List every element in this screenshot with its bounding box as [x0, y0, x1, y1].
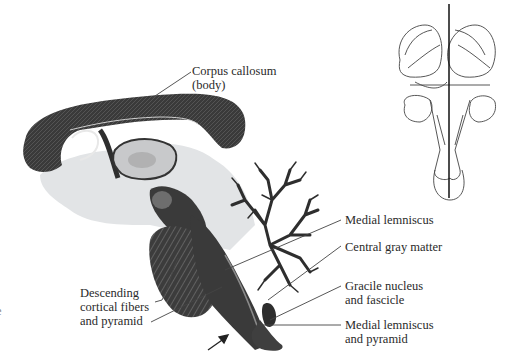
label-medial-lemniscus-pyramid: Medial lemniscus and pyramid	[345, 318, 434, 346]
label-medial-lemniscus: Medial lemniscus	[345, 213, 434, 227]
label-corpus-callosum: Corpus callosum (body)	[192, 64, 276, 92]
brain-section-illustration	[0, 0, 507, 359]
label-gracile-nucleus: Gracile nucleus and fascicle	[345, 279, 423, 307]
label-cut-off-left: e	[0, 304, 2, 318]
direction-arrow	[208, 335, 228, 350]
label-central-gray-matter: Central gray matter	[345, 240, 442, 254]
gracile-nucleus	[262, 303, 276, 327]
label-descending-cortical-fibers: Descending cortical fibers and pyramid	[80, 286, 149, 328]
figure: Corpus callosum (body) Medial lemniscus …	[0, 0, 507, 359]
orientation-diagram	[399, 25, 496, 200]
